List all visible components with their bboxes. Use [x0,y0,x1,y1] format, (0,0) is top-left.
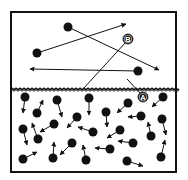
molecule-dot [34,135,43,144]
label-paths-group [83,42,141,94]
liquid-molecule [33,100,44,118]
liquid-molecule [32,123,43,144]
liquid-molecule [49,142,58,163]
molecule-dot [134,67,143,76]
liquid-molecule [107,126,125,139]
molecule-dot [124,99,133,108]
liquid-molecule [60,139,77,156]
liquid-molecule [128,112,146,121]
molecule-dot [102,108,111,117]
label-a-marker: A [138,92,148,102]
liquid-molecule [152,93,168,108]
molecule-dot [68,139,77,148]
molecule-dot [137,112,146,121]
gas-molecule [64,23,160,71]
liquid-molecule [102,108,111,128]
liquid-molecule [67,113,82,129]
molecule-dot [19,155,28,164]
molecule-dot [53,96,62,105]
molecule-dot [33,109,42,118]
molecule-dot [49,154,58,163]
gas-molecule [33,24,127,58]
molecule-dot [157,153,166,162]
molecule-dot [82,156,91,165]
liquid-molecules-group [19,93,168,167]
molecule-dot [85,94,94,103]
liquid-molecule [21,93,30,114]
velocity-arrow [30,69,138,71]
molecule-dot [123,157,132,166]
molecule-dot [64,23,73,32]
liquid-molecule [53,96,63,118]
molecule-dot [147,132,156,141]
liquid-molecule [123,157,144,167]
molecule-dot [158,115,167,124]
liquid-molecule [147,122,156,141]
molecule-dot [106,145,115,154]
label-b-text: B [125,35,131,44]
label-a-path-line [127,79,141,94]
label-b-path-line [83,42,126,89]
liquid-molecule [118,139,138,148]
liquid-molecule [19,152,38,164]
liquid-molecule [19,125,28,146]
evaporation-diagram: AB [0,0,188,180]
molecule-dot [129,139,138,148]
velocity-arrow [68,27,159,70]
liquid-surface-wavy-line [11,88,179,89]
molecule-dot [73,113,82,122]
liquid-molecule [95,145,115,154]
container-box [11,12,176,172]
liquid-molecule [117,99,133,114]
liquid-molecule [78,127,98,137]
molecule-dot [19,125,28,134]
molecule-dot [159,93,168,102]
liquid-molecule [158,115,167,136]
liquid-molecule [157,140,166,162]
liquid-molecule [85,94,94,116]
diagram-canvas: AB [0,0,188,180]
liquid-molecule [40,120,59,133]
molecule-dot [116,126,125,135]
liquid-molecule [82,145,91,165]
label-a-text: A [140,93,146,102]
molecule-dot [21,93,30,102]
gas-molecules-group [30,23,159,76]
molecule-dot [89,128,98,137]
gas-molecule [30,67,143,76]
label-b-marker: B [123,34,133,44]
molecule-dot [50,120,59,129]
molecule-dot [33,49,42,58]
